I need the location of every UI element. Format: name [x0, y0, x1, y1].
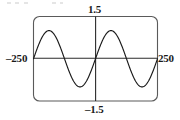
- x-max-label: 250: [158, 52, 174, 64]
- x-min-label: –250: [6, 52, 27, 64]
- y-max-label: 1.5: [88, 3, 101, 15]
- y-min-label: –1.5: [85, 103, 103, 115]
- graph-figure: 1.5 –1.5 –250 250: [0, 0, 180, 120]
